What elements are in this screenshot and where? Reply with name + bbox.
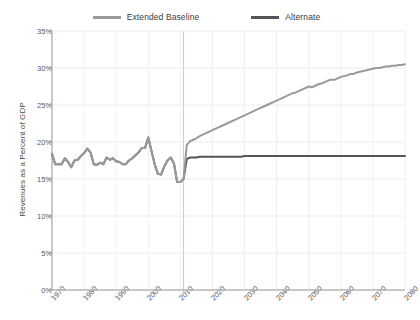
data-series-group: [52, 64, 405, 182]
series-line-extended-baseline: [52, 64, 405, 182]
